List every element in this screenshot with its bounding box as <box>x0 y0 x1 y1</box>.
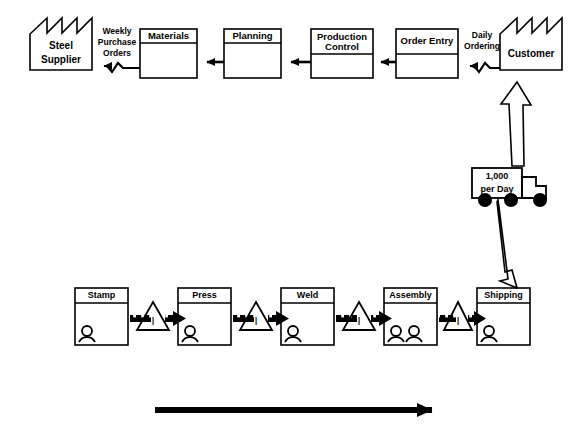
truck-wheel-rear <box>478 193 492 207</box>
process-step-press-label: Press <box>192 290 217 300</box>
process-step-shipping[interactable]: Shipping <box>477 288 530 345</box>
value-stream-map-canvas: Steel Supplier Customer Materials Planni… <box>0 0 587 441</box>
steel-supplier-label-line1: Steel <box>49 40 73 51</box>
info-flow-weekly-purchase-orders: Weekly Purchase Orders <box>98 26 140 72</box>
process-step-weld[interactable]: Weld <box>281 288 334 345</box>
material-flow-push-assembly-shipping <box>439 311 486 326</box>
material-flow-truck-to-customer <box>501 82 531 166</box>
process-step-assembly-label: Assembly <box>389 290 432 300</box>
information-box-materials-label: Materials <box>148 30 189 41</box>
vsm-diagram-svg: Steel Supplier Customer Materials Planni… <box>0 0 587 441</box>
process-step-weld-label: Weld <box>297 290 318 300</box>
process-step-stamp[interactable]: Stamp <box>75 288 128 345</box>
shipment-label-line2: per Day <box>480 184 513 194</box>
inventory-marker-1-label: I <box>151 315 154 327</box>
customer-label: Customer <box>508 48 555 59</box>
inventory-marker-3-label: I <box>357 315 360 327</box>
information-box-materials[interactable]: Materials <box>140 29 197 78</box>
operator-icon <box>481 326 497 342</box>
information-box-planning[interactable]: Planning <box>224 29 281 78</box>
process-step-press[interactable]: Press <box>178 288 231 345</box>
process-step-stamp-label: Stamp <box>88 290 116 300</box>
information-box-production-control-label-line2: Control <box>325 41 359 52</box>
weekly-purchase-orders-label-line3: Orders <box>103 48 131 58</box>
inventory-marker-2-label: I <box>254 315 257 327</box>
process-step-shipping-label: Shipping <box>484 290 523 300</box>
truck-wheel-front <box>533 193 547 207</box>
daily-ordering-label-line1: Daily <box>472 30 493 40</box>
weekly-purchase-orders-label-line2: Purchase <box>98 37 137 47</box>
process-step-assembly[interactable]: Assembly <box>384 288 437 345</box>
operator-icon <box>182 326 198 342</box>
info-flow-daily-ordering: Daily Ordering <box>464 30 500 72</box>
operator-icon <box>285 326 301 342</box>
operator-icon <box>406 326 422 342</box>
information-box-order-entry-label: Order Entry <box>401 35 455 46</box>
external-entity-customer: Customer <box>500 18 562 70</box>
shipment-label-line1: 1,000 <box>486 171 509 181</box>
information-box-order-entry[interactable]: Order Entry <box>396 29 458 78</box>
steel-supplier-label-line2: Supplier <box>41 54 81 65</box>
weekly-purchase-orders-label-line1: Weekly <box>102 26 131 36</box>
shipment-truck-icon[interactable]: 1,000 per Day <box>472 168 547 207</box>
external-entity-steel-supplier: Steel Supplier <box>30 18 92 70</box>
information-box-production-control[interactable]: Production Control <box>311 29 373 78</box>
information-box-planning-label: Planning <box>232 30 272 41</box>
operator-icon <box>79 326 95 342</box>
material-flow-shipping-to-truck <box>497 200 517 288</box>
daily-ordering-label-line2: Ordering <box>464 41 500 51</box>
truck-wheel-mid <box>504 193 518 207</box>
inventory-marker-4-label: I <box>456 315 459 327</box>
operator-icon <box>388 326 404 342</box>
